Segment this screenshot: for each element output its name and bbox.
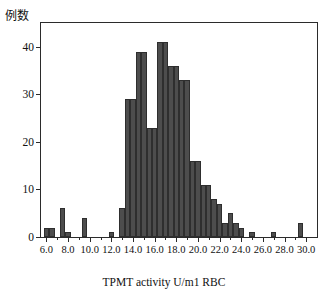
x-axis-title: TPMT activity U/m1 RBC [0, 276, 328, 288]
histogram-figure: 例数 010203040 6.08.010.012.014.016.018.02… [0, 0, 328, 300]
x-tick [241, 237, 242, 242]
x-tick-minor [165, 237, 166, 240]
x-tick [155, 237, 156, 242]
x-tick [46, 237, 47, 242]
y-tick [36, 189, 41, 190]
x-tick-label: 6.0 [40, 244, 53, 255]
x-tick [111, 237, 112, 242]
x-tick-label: 18.0 [167, 244, 185, 255]
x-tick [68, 237, 69, 242]
x-tick-minor [144, 237, 145, 240]
plot-area: 010203040 6.08.010.012.014.016.018.020.0… [40, 22, 318, 238]
histogram-bar [82, 218, 87, 237]
x-tick [285, 237, 286, 242]
x-tick-minor [295, 237, 296, 240]
x-tick-minor [79, 237, 80, 240]
x-tick-minor [252, 237, 253, 240]
x-tick-label: 16.0 [145, 244, 163, 255]
x-tick [220, 237, 221, 242]
x-tick-minor [57, 237, 58, 240]
y-axis-title: 例数 [5, 6, 29, 23]
x-tick-minor [230, 237, 231, 240]
y-tick [36, 47, 41, 48]
x-tick-minor [209, 237, 210, 240]
y-tick-label: 0 [28, 231, 34, 243]
x-tick-minor [101, 237, 102, 240]
x-tick-label: 14.0 [124, 244, 142, 255]
y-tick [36, 142, 41, 143]
x-tick-label: 22.0 [210, 244, 228, 255]
x-tick-label: 24.0 [232, 244, 250, 255]
x-tick-label: 12.0 [102, 244, 120, 255]
x-tick-label: 30.0 [297, 244, 315, 255]
y-tick-label: 40 [23, 41, 35, 53]
x-tick [133, 237, 134, 242]
histogram-bar [298, 223, 303, 237]
x-tick [176, 237, 177, 242]
x-tick [306, 237, 307, 242]
bars-container [41, 23, 317, 237]
x-tick-label: 26.0 [254, 244, 272, 255]
y-tick [36, 237, 41, 238]
y-tick-label: 20 [23, 136, 35, 148]
x-tick [90, 237, 91, 242]
histogram-bar [49, 228, 54, 238]
x-tick-label: 20.0 [189, 244, 207, 255]
x-tick-label: 8.0 [61, 244, 74, 255]
y-tick [36, 94, 41, 95]
x-tick [198, 237, 199, 242]
x-tick-label: 10.0 [81, 244, 99, 255]
y-tick-label: 10 [23, 183, 35, 195]
x-tick-minor [187, 237, 188, 240]
x-tick-minor [274, 237, 275, 240]
x-tick [263, 237, 264, 242]
histogram-bar [239, 228, 244, 238]
x-tick-minor [122, 237, 123, 240]
y-tick-label: 30 [23, 88, 35, 100]
x-tick-label: 28.0 [275, 244, 293, 255]
